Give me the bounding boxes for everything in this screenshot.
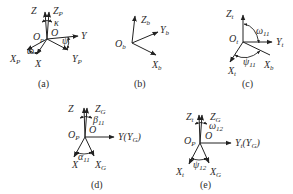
caption-c: (c)	[242, 78, 253, 90]
label-xb: Xb	[263, 59, 274, 72]
label-ot: Ot	[229, 33, 239, 46]
label-xt: Xt	[227, 65, 237, 78]
label-xg: XG	[94, 159, 106, 172]
xb-axis-arrow	[132, 43, 156, 55]
label-zb: Zb	[141, 14, 151, 27]
label-yb: Yb	[160, 24, 170, 37]
panel-c: Zt Ot ω11 Yt Xt ψ11 Xb (c)	[226, 8, 285, 90]
label-op: Op	[33, 31, 44, 44]
label-x: X	[71, 159, 79, 170]
z-axis-arrow	[45, 12, 47, 39]
label-z: Z	[68, 103, 74, 114]
label-xg: XG	[209, 166, 221, 179]
label-psi11: ψ11	[243, 56, 256, 69]
label-o: O	[51, 27, 58, 38]
label-xt: Xt	[175, 166, 185, 179]
panel-d: Z ZG β11 OP O Y(YG) α11 X XG (d)	[68, 103, 142, 191]
xb-axis-line	[243, 42, 270, 55]
label-op: OP	[68, 129, 80, 142]
caption-b: (b)	[134, 78, 146, 90]
label-o: O	[205, 130, 212, 141]
label-omega11: ω11	[256, 25, 270, 38]
label-y-yg: Y(YG)	[118, 131, 142, 144]
label-ob: Ob	[115, 38, 126, 51]
caption-d: (d)	[91, 179, 103, 191]
label-yt: Yt	[276, 36, 285, 49]
label-z: Z	[31, 5, 37, 16]
label-x: X	[34, 58, 42, 69]
label-zt: Zt	[226, 8, 235, 21]
zg-axis-arrow	[85, 108, 87, 137]
label-o: O	[89, 124, 96, 135]
label-op: OP	[184, 135, 196, 148]
kappa-arc	[42, 21, 52, 23]
panel-b: Zb Ob Yb Xb (b)	[115, 14, 170, 90]
coordinate-frames-figure: Z ZP κ Op O Y ψ YP XP ω X (a) Zb Ob Yb X…	[0, 0, 293, 194]
caption-a: (a)	[38, 78, 49, 90]
panel-a: Z ZP κ Op O Y ψ YP XP ω X (a)	[9, 5, 88, 90]
label-psi: ψ	[62, 35, 69, 46]
label-yp: YP	[72, 53, 83, 66]
label-omega: ω	[27, 45, 34, 56]
label-xp: XP	[9, 53, 21, 66]
yb-axis-arrow	[132, 32, 158, 43]
label-psi12: ψ12	[193, 159, 207, 172]
zg-axis-arrow	[200, 115, 202, 143]
label-xb: Xb	[151, 59, 162, 72]
label-alpha11: α11	[78, 151, 90, 164]
label-yt-yg: Yt(YG)	[235, 137, 260, 150]
zp-axis-arrow	[47, 12, 49, 39]
label-zt: Zt	[186, 111, 195, 124]
panel-e: Zt ZG ω12 OP O Yt(YG) ψ12 Xt XG (e)	[175, 111, 260, 191]
label-y: Y	[81, 30, 88, 41]
caption-e: (e)	[200, 179, 211, 191]
zb-axis-arrow	[132, 16, 135, 43]
